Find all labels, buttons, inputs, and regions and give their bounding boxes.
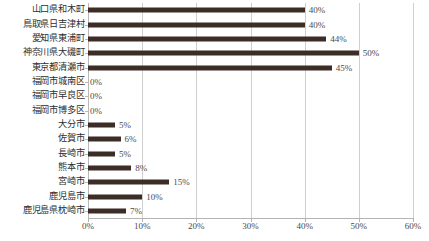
bar <box>88 165 131 170</box>
bar-chart: 山口県和木町鳥取県日吉津村愛知県東浦町神奈川県大磯町東京都清瀬市福岡市城南区福岡… <box>0 0 429 241</box>
category-label: 福岡市城南区 <box>0 77 85 86</box>
bar-value-label: 5% <box>119 149 131 158</box>
x-tick-label: 40% <box>296 222 313 231</box>
bar-value-label: 0% <box>90 92 102 101</box>
gridline-60pct <box>413 3 414 218</box>
bar <box>88 122 115 127</box>
bar-value-label: 15% <box>173 178 190 187</box>
bar-value-label: 44% <box>330 34 347 43</box>
gridline-30pct <box>251 3 252 218</box>
category-axis-labels: 山口県和木町鳥取県日吉津村愛知県東浦町神奈川県大磯町東京都清瀬市福岡市城南区福岡… <box>0 3 85 218</box>
x-tick-mark <box>413 218 414 222</box>
x-tick-label: 20% <box>188 222 205 231</box>
bar-value-label: 0% <box>90 77 102 86</box>
category-label: 長崎市 <box>0 149 85 158</box>
bar <box>88 151 115 156</box>
x-tick-mark <box>142 218 143 222</box>
x-tick-mark <box>305 218 306 222</box>
gridline-20pct <box>196 3 197 218</box>
bar <box>88 194 142 199</box>
bar-value-label: 50% <box>363 49 380 58</box>
x-tick-mark <box>196 218 197 222</box>
bar <box>88 137 121 142</box>
bar <box>88 180 169 185</box>
x-axis-tick-labels: 0%10%20%30%40%50%60% <box>0 222 429 240</box>
bar-value-label: 45% <box>336 63 353 72</box>
bar <box>88 65 332 70</box>
x-tick-label: 50% <box>351 222 368 231</box>
bar-value-label: 10% <box>146 192 163 201</box>
category-label: 大分市 <box>0 120 85 129</box>
y-tick-mark <box>85 82 88 83</box>
bar-value-label: 8% <box>135 163 147 172</box>
bar-value-label: 7% <box>130 206 142 215</box>
x-tick-mark <box>359 218 360 222</box>
x-tick-mark <box>88 218 89 222</box>
category-label: 山口県和木町 <box>0 6 85 15</box>
gridline-50pct <box>359 3 360 218</box>
plot-area: 40%40%44%50%45%0%0%0%5%6%5%8%15%10%7% <box>88 3 413 218</box>
category-label: 宮崎市 <box>0 178 85 187</box>
bar-value-label: 6% <box>125 135 137 144</box>
bar-value-label: 5% <box>119 120 131 129</box>
category-label: 東京都清瀬市 <box>0 63 85 72</box>
bar <box>88 8 305 13</box>
bar <box>88 36 326 41</box>
x-tick-label: 10% <box>134 222 151 231</box>
x-tick-label: 60% <box>405 222 422 231</box>
gridline-10pct <box>142 3 143 218</box>
category-label: 佐賀市 <box>0 135 85 144</box>
bar-value-label: 0% <box>90 106 102 115</box>
x-tick-label: 30% <box>242 222 259 231</box>
bar-value-label: 40% <box>309 6 326 15</box>
bar <box>88 22 305 27</box>
category-label: 鹿児島市 <box>0 192 85 201</box>
category-label: 熊本市 <box>0 163 85 172</box>
bar <box>88 208 126 213</box>
x-tick-label: 0% <box>82 222 94 231</box>
gridline-0pct <box>88 3 89 218</box>
category-label: 鹿児島県枕崎市 <box>0 206 85 215</box>
y-tick-mark <box>85 96 88 97</box>
y-tick-mark <box>85 111 88 112</box>
category-label: 福岡市早良区 <box>0 92 85 101</box>
category-label: 愛知県東浦町 <box>0 34 85 43</box>
bar <box>88 51 359 56</box>
category-label: 神奈川県大磯町 <box>0 49 85 58</box>
category-label: 鳥取県日吉津村 <box>0 20 85 29</box>
bar-value-label: 40% <box>309 20 326 29</box>
category-label: 福岡市博多区 <box>0 106 85 115</box>
x-tick-mark <box>251 218 252 222</box>
gridline-40pct <box>305 3 306 218</box>
